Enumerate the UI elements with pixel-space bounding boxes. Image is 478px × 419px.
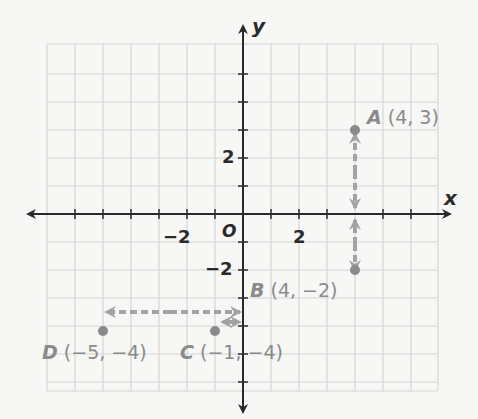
y-axis-label: y (252, 14, 265, 38)
y-tick-label-neg2: −2 (205, 258, 233, 279)
point-a-label: A (4, 3) (367, 106, 439, 128)
x-axis-label: x (444, 186, 457, 210)
point-b-label: B (4, −2) (250, 279, 338, 301)
x-tick-label-neg2: −2 (163, 226, 191, 247)
point-d-label: D (−5, −4) (42, 341, 147, 363)
x-tick-label-2: 2 (293, 226, 306, 247)
y-tick-label-2: 2 (222, 146, 235, 167)
origin-label: O (222, 221, 236, 241)
point-c-label: C (−1, −4) (180, 341, 283, 363)
